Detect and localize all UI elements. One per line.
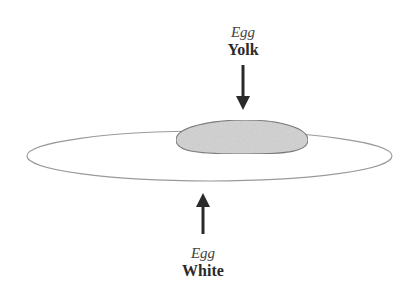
egg-white-label-name: White: [168, 263, 238, 279]
egg-yolk-label-name: Yolk: [213, 42, 273, 58]
white-arrow-icon: [196, 193, 210, 234]
egg-white-label-prefix: Egg: [168, 246, 238, 261]
egg-yolk-label-prefix: Egg: [213, 25, 273, 40]
egg-diagram: Egg Yolk Egg White: [0, 0, 413, 304]
egg-white-label: Egg White: [168, 246, 238, 279]
egg-yolk-label: Egg Yolk: [213, 25, 273, 58]
yolk-arrow-icon: [236, 65, 250, 110]
egg-yolk-shape: [176, 120, 308, 154]
